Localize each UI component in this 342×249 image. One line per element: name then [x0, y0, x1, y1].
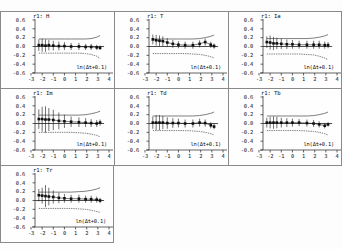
x-tick-label: 3 — [323, 153, 329, 159]
x-axis-label: ln(Δt+0.1) — [191, 141, 221, 147]
upper-confidence-band — [153, 35, 214, 39]
y-tick-label: -0.6 — [3, 70, 25, 76]
figure-panel-grid: r1: H0.60.40.20.0-0.2-0.4-0.6-3-2-101234… — [0, 0, 342, 249]
x-tick-label: 0 — [175, 76, 181, 82]
x-tick-label: -1 — [164, 153, 170, 159]
x-axis-label: ln(Δt+0.1) — [304, 141, 334, 147]
x-tick-label: 3 — [95, 230, 101, 236]
panel-r1-Tb: r1: Tb0.60.40.20.0-0.2-0.4-0.6-3-2-10123… — [228, 88, 342, 166]
y-tick-label: -0.4 — [117, 61, 139, 67]
upper-confidence-band — [39, 35, 100, 39]
y-tick-label: -0.6 — [3, 224, 25, 230]
y-tick-label: -0.2 — [3, 52, 25, 58]
x-tick-label: -1 — [50, 153, 56, 159]
y-tick-label: 0.6 — [3, 17, 25, 23]
panel-title: r1: Im — [33, 90, 53, 96]
x-axis-label: ln(Δt+0.1) — [191, 64, 221, 70]
y-tick-label: -0.4 — [3, 138, 25, 144]
x-tick-label: -1 — [164, 76, 170, 82]
x-tick-label: -3 — [256, 76, 262, 82]
panel-row-3: r1: Tr0.60.40.20.0-0.2-0.4-0.6-3-2-10123… — [0, 165, 342, 243]
y-tick-label: 0.4 — [3, 26, 25, 32]
x-tick-label: 3 — [209, 153, 215, 159]
x-tick-label: -2 — [39, 230, 45, 236]
x-tick-label: 1 — [73, 153, 79, 159]
panel-title: r1: Ia — [261, 13, 281, 19]
x-tick-label: -3 — [28, 76, 34, 82]
lower-confidence-band — [39, 132, 100, 136]
y-tick-label: 0.6 — [3, 171, 25, 177]
x-tick-label: 2 — [312, 76, 318, 82]
lower-confidence-band — [39, 53, 100, 58]
panel-title: r1: Tr — [33, 167, 53, 173]
x-tick-label: 2 — [84, 230, 90, 236]
x-tick-label: 1 — [301, 153, 307, 159]
lower-confidence-band — [267, 54, 328, 60]
y-tick-label: 0.4 — [231, 103, 253, 109]
x-tick-label: -3 — [142, 153, 148, 159]
x-tick-label: 1 — [187, 76, 193, 82]
x-tick-label: 1 — [301, 76, 307, 82]
y-tick-label: 0.4 — [3, 103, 25, 109]
y-tick-label: 0.2 — [3, 111, 25, 117]
y-tick-label: -0.4 — [231, 138, 253, 144]
x-tick-label: 2 — [312, 153, 318, 159]
x-tick-label: 2 — [198, 76, 204, 82]
y-tick-label: 0.6 — [231, 94, 253, 100]
panel-r1-Td: r1: Td0.60.40.20.0-0.2-0.4-0.6-3-2-10123… — [114, 88, 228, 166]
y-tick-label: 0.6 — [3, 94, 25, 100]
x-tick-label: 0 — [61, 230, 67, 236]
panel-title: r1: T — [147, 13, 163, 19]
x-tick-label: 2 — [84, 153, 90, 159]
y-tick-label: -0.2 — [3, 129, 25, 135]
x-axis-label: ln(Δt+0.1) — [77, 64, 107, 70]
y-tick-label: -0.2 — [231, 129, 253, 135]
y-tick-label: 0.6 — [117, 17, 139, 23]
y-tick-label: 0.0 — [231, 43, 253, 49]
x-tick-label: -2 — [39, 153, 45, 159]
y-tick-label: 0.4 — [117, 26, 139, 32]
x-tick-label: -2 — [267, 153, 273, 159]
y-tick-label: -0.6 — [117, 147, 139, 153]
panel-r1-T: r1: T0.60.40.20.0-0.2-0.4-0.6-3-2-101234… — [114, 11, 228, 89]
upper-confidence-band — [267, 35, 328, 39]
lower-confidence-band — [39, 208, 100, 212]
x-tick-label: 0 — [289, 153, 295, 159]
lower-confidence-band — [153, 54, 214, 58]
x-tick-label: 3 — [323, 76, 329, 82]
y-tick-label: 0.4 — [117, 103, 139, 109]
x-tick-label: 1 — [73, 230, 79, 236]
x-axis-label: ln(Δt+0.1) — [76, 218, 106, 224]
x-tick-label: 4 — [334, 153, 340, 159]
y-tick-label: 0.2 — [231, 34, 253, 40]
x-tick-label: -1 — [278, 153, 284, 159]
x-axis-label: ln(Δt+0.1) — [304, 64, 334, 70]
y-tick-label: -0.2 — [117, 52, 139, 58]
panel-r1-Tr: r1: Tr0.60.40.20.0-0.2-0.4-0.6-3-2-10123… — [0, 165, 114, 243]
x-tick-label: -2 — [267, 76, 273, 82]
y-tick-label: 0.0 — [117, 120, 139, 126]
upper-confidence-band — [39, 111, 100, 115]
y-tick-label: 0.6 — [117, 94, 139, 100]
y-tick-label: 0.2 — [117, 34, 139, 40]
x-tick-label: -1 — [50, 76, 56, 82]
x-tick-label: 3 — [209, 76, 215, 82]
x-tick-label: 4 — [220, 153, 226, 159]
panel-row-2: r1: Im0.60.40.20.0-0.2-0.4-0.6-3-2-10123… — [0, 88, 342, 166]
upper-confidence-band — [267, 112, 328, 116]
panel-title: r1: Tb — [261, 90, 281, 96]
y-tick-label: 0.4 — [3, 180, 25, 186]
x-tick-label: -3 — [142, 76, 148, 82]
x-tick-label: -3 — [28, 153, 34, 159]
y-tick-label: 0.0 — [117, 43, 139, 49]
y-tick-label: 0.2 — [231, 111, 253, 117]
y-tick-label: -0.2 — [3, 206, 25, 212]
lower-confidence-band — [153, 131, 214, 135]
panel-r1-Im: r1: Im0.60.40.20.0-0.2-0.4-0.6-3-2-10123… — [0, 88, 114, 166]
x-tick-label: -2 — [153, 153, 159, 159]
x-tick-label: 2 — [198, 153, 204, 159]
y-tick-label: 0.2 — [3, 34, 25, 40]
panel-r1-H: r1: H0.60.40.20.0-0.2-0.4-0.6-3-2-101234… — [0, 11, 114, 89]
y-tick-label: -0.2 — [117, 129, 139, 135]
x-tick-label: 1 — [73, 76, 79, 82]
